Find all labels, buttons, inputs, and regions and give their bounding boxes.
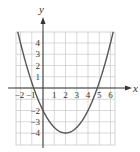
y-tick-label: −2: [30, 106, 40, 116]
x-axis-arrow-icon: [125, 86, 132, 91]
y-tick-label: −3: [30, 117, 40, 127]
x-axis-label: x: [132, 82, 138, 94]
y-tick-label: 3: [36, 49, 41, 59]
y-tick-label: 1: [36, 72, 41, 82]
x-tick-label: 2: [63, 90, 68, 100]
x-tick-label: 6: [108, 90, 113, 100]
y-axis-label: y: [38, 3, 44, 15]
y-tick-label: 2: [36, 61, 41, 71]
x-tick-label: −1: [26, 90, 36, 100]
x-tick-label: 5: [97, 90, 102, 100]
x-tick-label: 1: [52, 90, 57, 100]
x-tick-label: 3: [75, 90, 80, 100]
axes: [8, 17, 132, 148]
y-tick-label: −4: [30, 128, 40, 138]
x-tick-label: −2: [15, 90, 25, 100]
x-tick-label: 4: [86, 90, 91, 100]
y-axis-arrow-icon: [41, 17, 46, 24]
parabola-graph: −2−11234564321−2−3−4 x y: [0, 0, 140, 152]
y-tick-label: 4: [36, 38, 41, 48]
